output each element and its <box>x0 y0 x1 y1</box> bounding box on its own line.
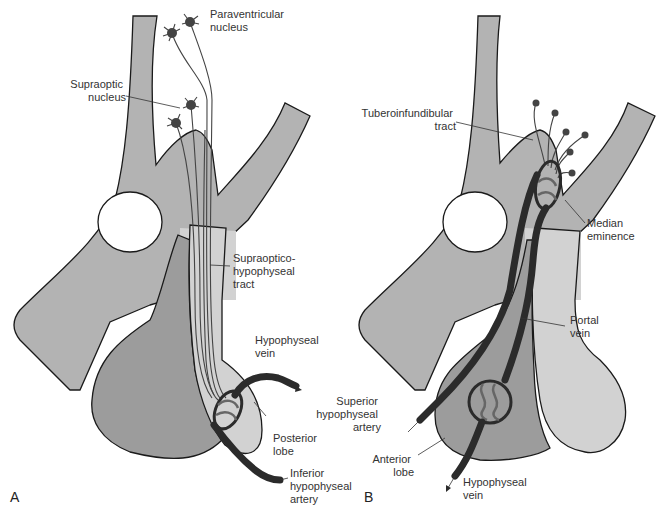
label-inferior-hypophyseal-artery: Inferior hypophyseal artery <box>290 467 355 505</box>
panel-label-b: B <box>364 489 373 505</box>
panel-a: Paraventricular nucleus Supraoptic nucle… <box>10 8 355 505</box>
vein-arrow <box>446 485 451 492</box>
neuron-body <box>552 110 559 117</box>
label-hypophyseal-vein-b: Hypophyseal vein <box>463 476 530 501</box>
hypothalamic-pituitary-diagram: Paraventricular nucleus Supraoptic nucle… <box>0 0 666 516</box>
label-posterior-lobe: Posterior lobe <box>273 432 320 457</box>
neuron-body <box>533 100 540 107</box>
neuron-body <box>569 170 576 177</box>
vein-end <box>448 476 455 488</box>
optic-chiasm <box>98 192 162 252</box>
label-superior-hypophyseal-artery: Superior hypophyseal artery <box>316 395 381 433</box>
neuron-body <box>563 129 570 136</box>
artery-end <box>408 420 420 432</box>
supraoptic-neurons <box>167 97 199 129</box>
label-portal-vein: Portal vein <box>570 314 602 339</box>
label-supraoptico-hypophyseal-tract: Supraoptico- hypophyseal tract <box>233 252 298 290</box>
panel-label-a: A <box>10 489 20 505</box>
label-supraoptic-nucleus: Supraoptic nucleus <box>70 78 126 103</box>
leader-anterior-lobe <box>418 438 445 455</box>
optic-chiasm <box>443 192 507 252</box>
paraventricular-neurons <box>163 14 199 41</box>
panel-b: Tuberoinfundibular tract Median eminence… <box>316 16 655 505</box>
neuron-body <box>582 132 589 139</box>
label-hypophyseal-vein-a: Hypophyseal vein <box>255 334 322 359</box>
label-paraventricular-nucleus: Paraventricular nucleus <box>210 8 287 33</box>
label-tuberoinfundibular-tract: Tuberoinfundibular tract <box>362 107 456 132</box>
label-anterior-lobe: Anterior lobe <box>372 453 414 478</box>
label-median-eminence: Median eminence <box>587 217 635 242</box>
neuron-body <box>567 149 574 156</box>
